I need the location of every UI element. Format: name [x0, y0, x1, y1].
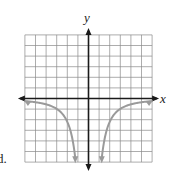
y-axis-label: y: [84, 11, 90, 24]
axes: [18, 28, 159, 171]
choice-label: d.: [0, 151, 7, 167]
x-axis-label: x: [160, 92, 166, 105]
graph: [0, 0, 179, 185]
